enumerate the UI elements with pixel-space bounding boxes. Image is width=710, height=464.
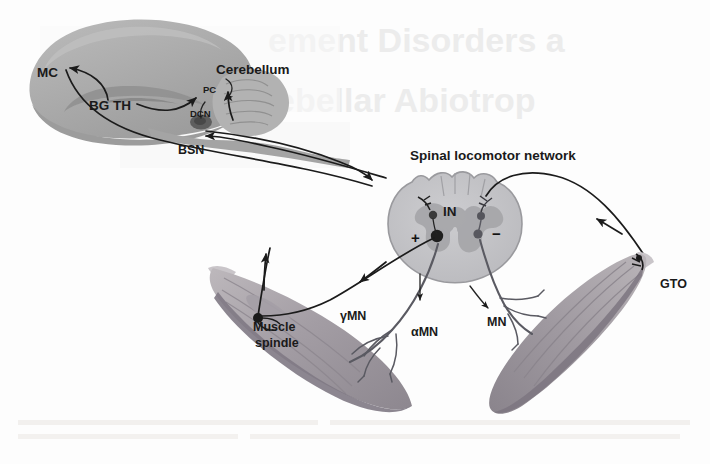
cord-central-canal bbox=[453, 227, 457, 235]
label-alpha-motor-neuron: αMN bbox=[411, 325, 438, 339]
spinal-cord-cross-section bbox=[388, 172, 522, 283]
right-muscle-illustration bbox=[489, 252, 654, 414]
neuroanatomy-figure: ement Disorders a ebellar Abiotrop bbox=[0, 0, 710, 464]
label-basal-ganglia-thalamus: BG TH bbox=[89, 98, 131, 113]
label-muscle-spindle-line1: Muscle bbox=[253, 320, 295, 334]
gamma-motor-direction-arrow bbox=[360, 262, 386, 282]
label-gamma-motor-neuron: γMN bbox=[340, 309, 366, 323]
label-excitatory-sign: + bbox=[411, 229, 420, 246]
label-deep-cerebellar-nuclei: DCN bbox=[190, 108, 211, 119]
label-brainstem-nuclei: BSN bbox=[178, 143, 204, 157]
label-golgi-tendon-organ: GTO bbox=[660, 277, 687, 291]
label-interneuron: IN bbox=[443, 204, 457, 219]
bleed-text-footer bbox=[18, 420, 690, 439]
interneuron-soma-left bbox=[429, 211, 437, 219]
figure-canvas: ement Disorders a ebellar Abiotrop bbox=[0, 0, 710, 464]
cerebellum-shape bbox=[213, 69, 290, 136]
interneuron-soma-right bbox=[477, 212, 485, 220]
label-spinal-locomotor-network: Spinal locomotor network bbox=[410, 148, 576, 163]
left-muscle-illustration bbox=[208, 266, 412, 412]
right-muscle-belly bbox=[489, 254, 646, 414]
label-inhibitory-sign: − bbox=[492, 225, 501, 242]
label-muscle-spindle-line2: spindle bbox=[255, 336, 299, 350]
label-motor-cortex: MC bbox=[37, 65, 58, 80]
label-purkinje-cell: PC bbox=[203, 84, 216, 95]
label-cerebellum: Cerebellum bbox=[216, 62, 290, 77]
motor-neuron-direction-arrow-right bbox=[470, 286, 488, 308]
motor-neuron-soma-left bbox=[431, 230, 443, 242]
left-muscle-belly bbox=[210, 268, 412, 409]
label-motor-neuron: MN bbox=[487, 315, 506, 329]
